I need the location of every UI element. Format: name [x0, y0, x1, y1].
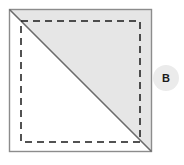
sewing-diagram-canvas: B: [0, 0, 184, 165]
diagram-root: B: [0, 0, 184, 165]
badge-letter: B: [162, 72, 170, 84]
